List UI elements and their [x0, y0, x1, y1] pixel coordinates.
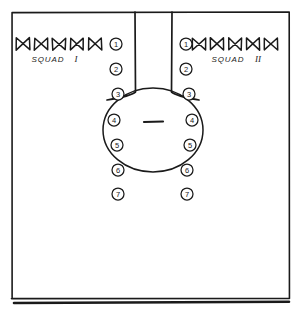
bowtie-icon: [70, 38, 83, 50]
bowtie-icon: [89, 38, 102, 50]
bowtie-icon: [52, 38, 66, 50]
squad-2-markers: [192, 38, 277, 51]
squad-1-numeral: I: [74, 54, 79, 64]
right_column-position-1: 1: [180, 38, 192, 50]
position-number: 7: [185, 190, 189, 199]
left_column-position-6: 6: [112, 164, 124, 176]
position-number: 5: [115, 141, 119, 150]
formation-diagram: 12345671234567 SQUAD I SQUAD II: [0, 0, 303, 320]
squad-2-soldier-5: [264, 38, 277, 50]
position-number: 5: [188, 141, 192, 150]
position-number: 2: [114, 65, 118, 74]
bowtie-icon: [192, 38, 205, 50]
bowtie-icon: [16, 38, 30, 51]
position-number: 4: [112, 116, 116, 125]
squad-markers-layer: [16, 38, 278, 51]
squad-1-soldier-4: [70, 38, 83, 50]
position-number: 1: [184, 40, 188, 49]
left_column-position-5: 5: [111, 139, 123, 151]
squad-2-numeral: II: [254, 54, 262, 64]
bowtie-icon: [264, 38, 277, 50]
squad-2-soldier-4: [246, 38, 259, 50]
position-number: 4: [190, 116, 194, 125]
right_column-position-4: 4: [186, 114, 198, 126]
squad-1-label: SQUAD: [32, 55, 65, 64]
position-number: 1: [114, 40, 118, 49]
frame-baseline: [14, 302, 289, 303]
left_column-position-1: 1: [110, 38, 122, 50]
left_column-position-4: 4: [108, 114, 120, 126]
right_column-position-6: 6: [181, 164, 193, 176]
position-number: 3: [187, 90, 191, 99]
bowtie-icon: [210, 38, 223, 50]
squad-1-soldier-3: [52, 38, 66, 50]
position-number: 3: [116, 90, 120, 99]
center-corridor: [107, 12, 199, 100]
left_column-position-2: 2: [110, 63, 122, 75]
position-number: 7: [116, 190, 120, 199]
position-number: 2: [184, 65, 188, 74]
position-number: 6: [185, 166, 189, 175]
bowtie-icon: [34, 38, 47, 50]
right_column-position-5: 5: [184, 139, 196, 151]
right_column-position-2: 2: [180, 63, 192, 75]
corridor-left-line: [107, 12, 136, 100]
position-number: 6: [116, 166, 120, 175]
squad-2-soldier-3: [229, 38, 242, 51]
center-dash: [144, 122, 163, 123]
bowtie-icon: [246, 38, 259, 50]
squad-1-soldier-1: [16, 38, 30, 51]
squad-2-soldier-2: [210, 38, 223, 50]
diagram-canvas: 12345671234567 SQUAD I SQUAD II: [0, 0, 303, 320]
right_column-position-7: 7: [181, 188, 193, 200]
position-markers-layer: 12345671234567: [108, 38, 198, 200]
squad-2-soldier-1: [192, 38, 205, 50]
squad-labels-layer: SQUAD I SQUAD II: [32, 54, 262, 64]
bowtie-icon: [229, 38, 242, 51]
squad-2-label: SQUAD: [212, 55, 245, 64]
right_column-position-3: 3: [183, 88, 195, 100]
left_column-position-3: 3: [112, 88, 124, 100]
left_column-position-7: 7: [112, 188, 124, 200]
squad-1-soldier-2: [34, 38, 47, 50]
squad-1-markers: [16, 38, 102, 51]
squad-1-soldier-5: [89, 38, 102, 50]
corridor-right-line: [172, 12, 200, 100]
